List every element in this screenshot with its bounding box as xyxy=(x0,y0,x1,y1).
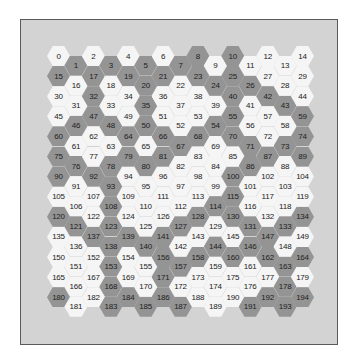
hex-cell-label: 135 xyxy=(52,232,65,241)
hex-cell-label: 91 xyxy=(72,182,81,191)
hex-cell-label: 33 xyxy=(107,101,116,110)
hex-cell-label: 106 xyxy=(70,202,83,211)
hex-cell-label: 51 xyxy=(159,112,168,121)
hex-cell-label: 105 xyxy=(52,192,65,201)
hex-cell-label: 143 xyxy=(192,232,205,241)
hex-cell-label: 108 xyxy=(104,202,117,211)
hex-cell-label: 71 xyxy=(246,142,255,151)
hex-cell-label: 59 xyxy=(298,112,307,121)
hex-cell-label: 11 xyxy=(246,61,254,70)
hex-cell-label: 140 xyxy=(139,242,152,251)
hex-cell-label: 36 xyxy=(159,92,168,101)
hex-cell-label: 1 xyxy=(74,61,78,70)
hex-cell-label: 180 xyxy=(52,293,65,302)
hex-cell-label: 62 xyxy=(89,132,98,141)
hex-cell-label: 139 xyxy=(122,232,135,241)
hex-cell-label: 160 xyxy=(226,253,239,262)
hex-cell-label: 122 xyxy=(87,212,100,221)
hex-cell-label: 154 xyxy=(122,253,135,262)
hex-cell-label: 175 xyxy=(226,273,239,282)
hex-cell-label: 109 xyxy=(122,192,135,201)
hex-cell-label: 107 xyxy=(87,192,100,201)
hex-cell-label: 112 xyxy=(174,202,186,211)
hex-cell-label: 111 xyxy=(157,192,169,201)
hex-cell-label: 166 xyxy=(70,282,83,291)
hex-cell-label: 65 xyxy=(141,142,150,151)
hex-cell-label: 50 xyxy=(141,121,150,130)
hex-cell-label: 186 xyxy=(157,293,170,302)
hex-cell-label: 53 xyxy=(194,112,203,121)
hex-cell-label: 183 xyxy=(104,302,117,311)
hex-cell-label: 2 xyxy=(91,52,95,61)
hex-cell-label: 42 xyxy=(263,92,272,101)
hex-cell-label: 98 xyxy=(194,172,203,181)
hex-cell-label: 116 xyxy=(244,202,256,211)
hex-cell-label: 61 xyxy=(72,142,81,151)
hex-cell-label: 29 xyxy=(298,72,307,81)
hex-cell-label: 55 xyxy=(229,112,238,121)
hex-cell-label: 164 xyxy=(296,253,309,262)
hex-cell-label: 126 xyxy=(157,212,170,221)
hex-cell-label: 20 xyxy=(141,81,150,90)
hex-cell-label: 179 xyxy=(296,273,309,282)
hex-cell-label: 168 xyxy=(104,282,117,291)
hex-cell-label: 85 xyxy=(229,152,238,161)
hex-cell-label: 93 xyxy=(107,182,116,191)
hex-cell-label: 15 xyxy=(54,72,63,81)
hex-cell-label: 173 xyxy=(192,273,205,282)
hex-cell-label: 118 xyxy=(279,202,291,211)
hex-cell-label: 76 xyxy=(72,162,81,171)
hex-cell-label: 66 xyxy=(159,132,168,141)
hex-cell-label: 144 xyxy=(209,242,222,251)
hex-cell-label: 9 xyxy=(213,61,217,70)
hex-cell-label: 75 xyxy=(54,152,63,161)
hex-cell-label: 90 xyxy=(54,172,63,181)
hex-cell-label: 92 xyxy=(89,172,98,181)
hex-cell-label: 145 xyxy=(226,232,239,241)
hex-cell-label: 16 xyxy=(72,81,81,90)
hex-cell-label: 170 xyxy=(139,282,152,291)
hex-cell-label: 192 xyxy=(261,293,274,302)
hex-cell-label: 172 xyxy=(174,282,187,291)
hex-cell-label: 46 xyxy=(72,121,81,130)
hex-cell-label: 178 xyxy=(279,282,292,291)
hex-cell-label: 70 xyxy=(229,132,238,141)
hex-cell-label: 187 xyxy=(174,302,187,311)
hex-cell-label: 87 xyxy=(263,152,272,161)
hex-cell-label: 141 xyxy=(157,232,170,241)
hex-cell-label: 95 xyxy=(141,182,150,191)
hex-cell-label: 153 xyxy=(104,262,117,271)
hex-cell-label: 151 xyxy=(70,262,83,271)
hex-cell-label: 182 xyxy=(87,293,100,302)
hex-cell-label: 94 xyxy=(124,172,133,181)
hex-cell-label: 64 xyxy=(124,132,133,141)
hex-cell-label: 30 xyxy=(54,92,63,101)
hex-cell-label: 190 xyxy=(226,293,239,302)
hex-cell-label: 89 xyxy=(298,152,307,161)
hex-cell-label: 130 xyxy=(226,212,239,221)
hex-cell-label: 165 xyxy=(52,273,65,282)
hex-cell-label: 60 xyxy=(54,132,63,141)
hex-cell-label: 162 xyxy=(261,253,274,262)
hex-cell-label: 193 xyxy=(279,302,292,311)
hex-cell-label: 10 xyxy=(229,52,238,61)
hex-cell-label: 54 xyxy=(211,121,220,130)
hex-cell-label: 48 xyxy=(107,121,116,130)
hex-cell-label: 181 xyxy=(70,302,83,311)
hex-cell-label: 56 xyxy=(246,121,255,130)
hex-cell-label: 17 xyxy=(89,72,98,81)
hex-cell-label: 74 xyxy=(298,132,307,141)
hex-cell-label: 14 xyxy=(298,52,307,61)
hex-cell-label: 86 xyxy=(246,162,255,171)
hex-cell-label: 32 xyxy=(89,92,98,101)
hex-cell-label: 67 xyxy=(176,142,185,151)
hex-cell-label: 148 xyxy=(279,242,292,251)
hex-cell-label: 88 xyxy=(281,162,290,171)
hex-cell-label: 79 xyxy=(124,152,133,161)
hex-cell-label: 159 xyxy=(209,262,222,271)
hex-cell-label: 84 xyxy=(211,162,220,171)
hex-cell-label: 138 xyxy=(104,242,117,251)
hex-cell-label: 8 xyxy=(196,52,200,61)
hex-cell-label: 185 xyxy=(139,302,152,311)
hex-cell-label: 72 xyxy=(263,132,272,141)
